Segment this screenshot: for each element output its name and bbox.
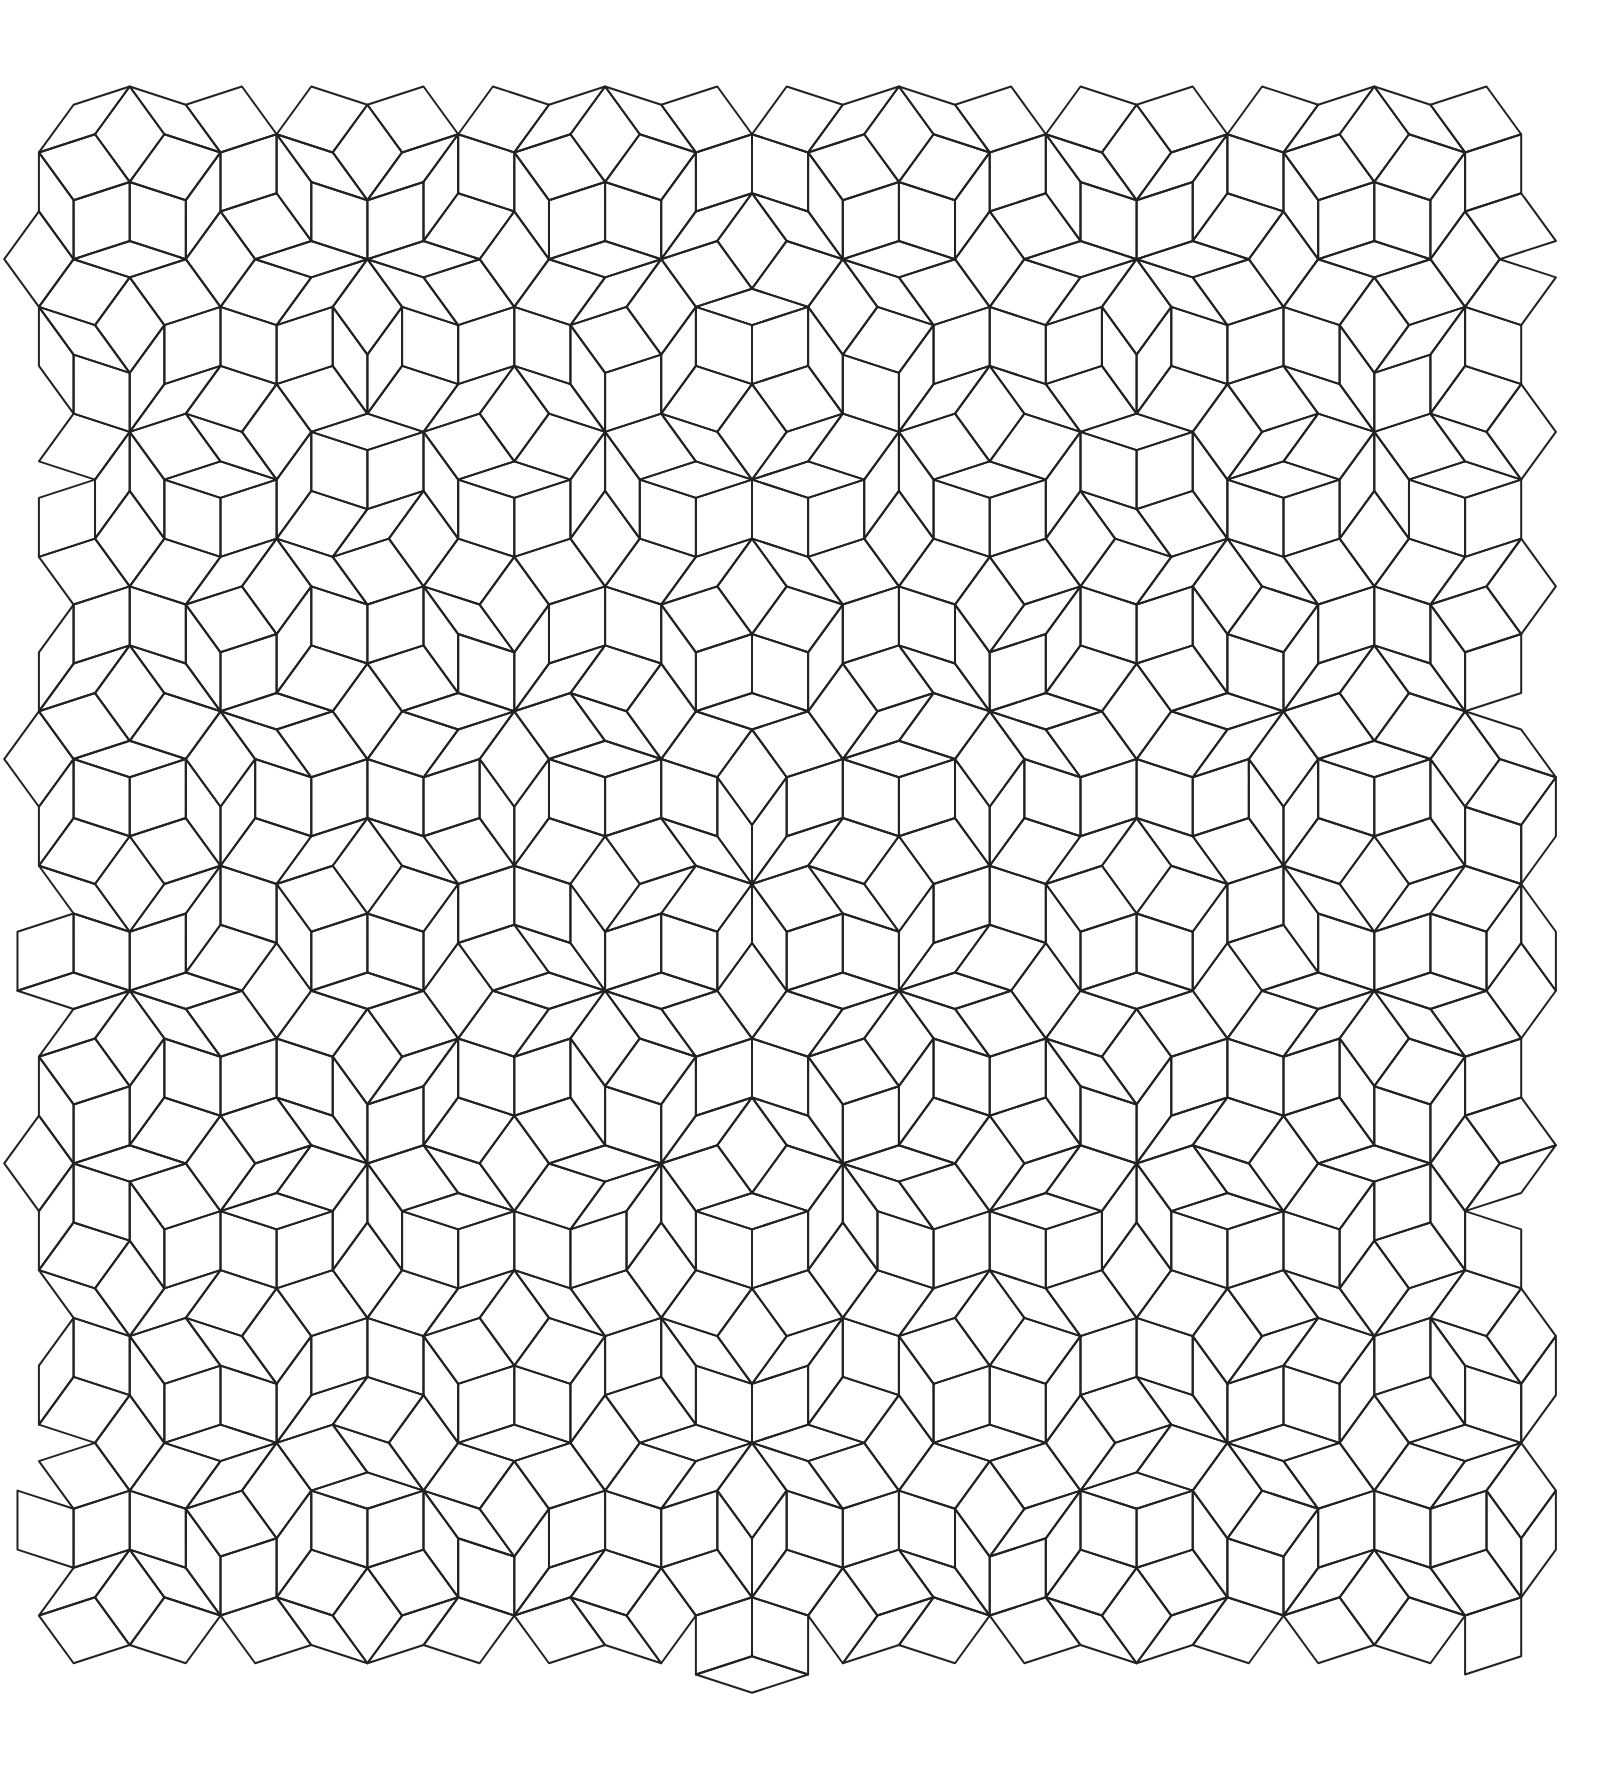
background	[0, 0, 1615, 1769]
penrose-tiling-canvas	[0, 0, 1615, 1769]
